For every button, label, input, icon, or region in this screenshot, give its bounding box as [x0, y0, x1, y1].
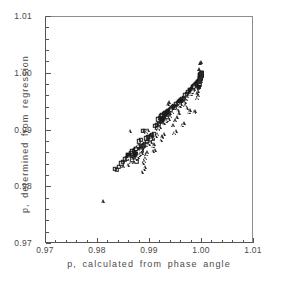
data-point-triangle	[168, 114, 172, 118]
y-axis-minor-tick	[46, 220, 49, 221]
x-axis-minor-tick	[107, 240, 108, 243]
x-axis-major-tick	[149, 238, 150, 243]
x-axis-tick-label: 1.01	[244, 245, 262, 255]
y-axis-minor-tick	[46, 141, 49, 142]
y-axis-minor-tick	[46, 175, 49, 176]
y-axis-minor-tick	[46, 152, 49, 153]
y-axis-minor-tick	[46, 232, 49, 233]
data-point-triangle	[183, 103, 187, 107]
data-point-triangle	[166, 102, 170, 106]
x-axis-tick-label: 0.99	[140, 245, 158, 255]
data-point-triangle	[199, 79, 203, 83]
y-axis-major-tick	[46, 243, 51, 244]
data-point-triangle	[193, 109, 197, 113]
y-axis-minor-tick	[46, 39, 49, 40]
data-point-triangle	[152, 142, 156, 146]
data-point-triangle	[128, 129, 132, 133]
y-axis-minor-tick	[46, 27, 49, 28]
x-axis-minor-tick	[180, 240, 181, 243]
y-axis-major-tick	[46, 130, 51, 131]
x-axis-minor-tick	[128, 240, 129, 243]
x-axis-minor-tick	[87, 240, 88, 243]
x-axis-tick-label: 1.00	[192, 245, 210, 255]
plot-data-area	[46, 17, 252, 242]
data-point-triangle	[160, 134, 164, 138]
y-axis-minor-tick	[46, 209, 49, 210]
x-axis-minor-tick	[66, 240, 67, 243]
scatter-plot-figure: 0.970.980.991.001.010.970.980.991.001.01…	[0, 0, 289, 281]
x-axis-tick-label: 0.97	[36, 245, 54, 255]
x-axis-major-tick	[97, 238, 98, 243]
x-axis-minor-tick	[243, 240, 244, 243]
x-axis-minor-tick	[170, 240, 171, 243]
x-axis-minor-tick	[118, 240, 119, 243]
data-point-triangle	[145, 150, 149, 154]
data-point-triangle	[174, 129, 178, 133]
x-axis-minor-tick	[191, 240, 192, 243]
x-axis-major-tick	[201, 238, 202, 243]
data-point-triangle	[155, 132, 159, 136]
x-axis-title: p, calculated from phase angle	[45, 259, 253, 269]
x-axis-minor-tick	[76, 240, 77, 243]
y-axis-minor-tick	[46, 198, 49, 199]
y-axis-title: p, determined from regression	[20, 14, 30, 254]
y-axis-minor-tick	[46, 95, 49, 96]
y-axis-minor-tick	[46, 61, 49, 62]
x-axis-minor-tick	[55, 240, 56, 243]
data-point-triangle	[173, 118, 177, 122]
data-point-triangle	[140, 146, 144, 150]
data-point-triangle	[170, 110, 174, 114]
data-point-triangle	[143, 165, 147, 169]
data-point-triangle	[171, 123, 175, 127]
y-axis-minor-tick	[46, 50, 49, 51]
y-axis-minor-tick	[46, 84, 49, 85]
data-point-triangle	[101, 199, 105, 203]
data-point-triangle	[182, 121, 186, 125]
x-axis-minor-tick	[232, 240, 233, 243]
data-point-triangle	[198, 61, 202, 65]
data-point-triangle	[197, 67, 201, 71]
y-axis-minor-tick	[46, 164, 49, 165]
data-point-triangle	[199, 71, 203, 75]
y-axis-minor-tick	[46, 107, 49, 108]
data-point-triangle	[151, 149, 155, 153]
x-axis-minor-tick	[222, 240, 223, 243]
plot-frame	[45, 16, 253, 243]
x-axis-minor-tick	[211, 240, 212, 243]
y-axis-minor-tick	[46, 118, 49, 119]
data-point-triangle	[158, 125, 162, 129]
y-axis-major-tick	[46, 73, 51, 74]
x-axis-major-tick	[253, 238, 254, 243]
data-point-triangle	[146, 128, 150, 132]
x-axis-minor-tick	[159, 240, 160, 243]
y-axis-major-tick	[46, 16, 51, 17]
y-axis-major-tick	[46, 186, 51, 187]
x-axis-minor-tick	[139, 240, 140, 243]
x-axis-tick-label: 0.98	[88, 245, 106, 255]
data-point-triangle	[195, 91, 199, 95]
data-point-triangle	[192, 87, 196, 91]
